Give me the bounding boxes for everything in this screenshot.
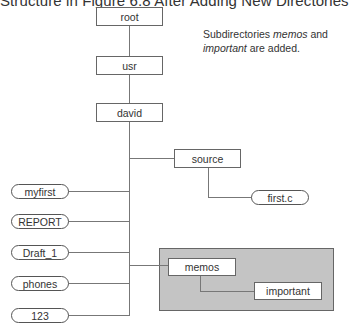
connector-source-firstc	[208, 197, 252, 198]
note-term-important: important	[203, 42, 247, 54]
connector-memos-down	[200, 276, 201, 292]
note-suffix: are added.	[247, 42, 300, 54]
connector-david-trunk	[129, 122, 130, 316]
file-report[interactable]: REPORT	[11, 214, 69, 229]
figure-title: Structure in Figure 6.8 After Adding New…	[0, 0, 349, 9]
connector-usr-david	[129, 74, 130, 103]
file-draft-1[interactable]: Draft_1	[11, 245, 69, 260]
dir-important[interactable]: important	[254, 282, 322, 300]
dir-memos[interactable]: memos	[168, 258, 236, 276]
connector-trunk-memos	[129, 265, 169, 266]
connector-source-down	[208, 168, 209, 198]
connector-memos-important	[200, 291, 255, 292]
connector-draft1	[68, 252, 130, 253]
dir-source[interactable]: source	[174, 149, 241, 168]
file-first-c[interactable]: first.c	[251, 190, 309, 205]
dir-root[interactable]: root	[96, 7, 163, 26]
note-middle: and	[307, 28, 327, 40]
connector-root-usr	[129, 26, 130, 56]
note-term-memos: memos	[273, 28, 307, 40]
file-myfirst[interactable]: myfirst	[11, 184, 69, 199]
connector-123	[68, 315, 130, 316]
dir-david[interactable]: david	[96, 103, 163, 122]
file-123[interactable]: 123	[11, 308, 69, 323]
connector-report	[68, 221, 130, 222]
annotation-note: Subdirectories memos and important are a…	[203, 27, 343, 55]
connector-myfirst	[68, 191, 130, 192]
connector-trunk-source	[129, 158, 174, 159]
note-prefix: Subdirectories	[203, 28, 273, 40]
file-phones[interactable]: phones	[11, 276, 69, 291]
connector-phones	[68, 283, 130, 284]
dir-usr[interactable]: usr	[96, 56, 163, 75]
